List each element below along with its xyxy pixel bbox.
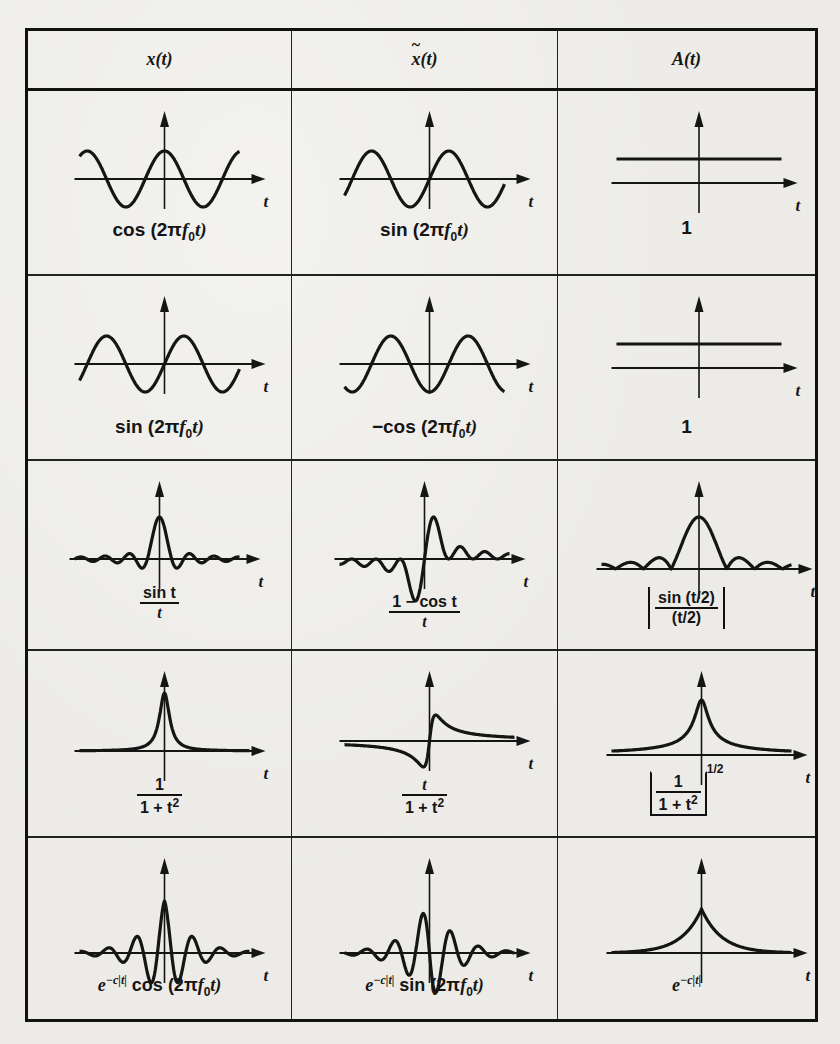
svg-text:t: t: [529, 377, 535, 396]
header-row: x(t) x(t) A(t): [27, 30, 817, 90]
cell-A: t e−c|t|: [558, 837, 817, 1021]
cell-x: t e−c|t| cos (2πf0t): [27, 837, 292, 1021]
caption: 1 − cos tt: [292, 593, 557, 631]
caption: cos (2πf0t): [28, 219, 291, 244]
cell-xtilde: t 1 − cos tt: [292, 460, 558, 650]
cell-xtilde: t sin (2πf0t): [292, 90, 558, 275]
cell-x: t sin tt: [27, 460, 292, 650]
svg-text:t: t: [529, 192, 535, 211]
table-row: t 11 + t2 t t1 + t2 t 11 + t21/2: [27, 650, 817, 837]
caption: sin (2πf0t): [28, 416, 291, 441]
caption: t1 + t2: [292, 776, 557, 817]
caption: 1: [558, 416, 815, 438]
svg-text:t: t: [529, 754, 535, 773]
header-xtilde-fn: x: [412, 49, 421, 70]
caption: −cos (2πf0t): [292, 416, 557, 441]
table-row: t e−c|t| cos (2πf0t) t e−c|t| sin (2πf0t…: [27, 837, 817, 1021]
cell-x: t 11 + t2: [27, 650, 292, 837]
cell-xtilde: t −cos (2πf0t): [292, 275, 558, 460]
signal-plot: t: [558, 91, 815, 271]
caption: 1: [558, 217, 815, 239]
cell-A: t sin (t/2)(t/2): [558, 460, 817, 650]
svg-text:t: t: [264, 377, 270, 396]
header-xtilde-arg: (t): [421, 49, 438, 69]
cell-A: t 1: [558, 90, 817, 275]
hilbert-transform-pairs-table: x(t) x(t) A(t) t cos (2πf0t) t sin (2πf0…: [25, 28, 818, 1022]
cell-A: t 11 + t21/2: [558, 650, 817, 837]
caption: e−c|t| sin (2πf0t): [292, 973, 557, 999]
signal-plot: t: [292, 91, 557, 271]
header-A-fn: A: [672, 49, 684, 69]
caption: e−c|t| cos (2πf0t): [28, 973, 291, 999]
caption: 11 + t21/2: [558, 771, 815, 816]
cell-xtilde: t e−c|t| sin (2πf0t): [292, 837, 558, 1021]
header-A-arg: (t): [684, 49, 701, 69]
svg-text:t: t: [796, 381, 802, 400]
header-x: x(t): [27, 30, 292, 90]
table-row: t sin (2πf0t) t −cos (2πf0t) t 1: [27, 275, 817, 460]
caption: e−c|t|: [558, 973, 815, 996]
table-row: t cos (2πf0t) t sin (2πf0t) t 1: [27, 90, 817, 275]
caption: sin (t/2)(t/2): [558, 587, 815, 629]
caption: sin (2πf0t): [292, 219, 557, 244]
header-x-tilde: x(t): [292, 30, 558, 90]
caption: sin tt: [28, 584, 291, 622]
table-row: t sin tt t 1 − cos tt t sin (t/2)(t/2): [27, 460, 817, 650]
svg-text:t: t: [524, 572, 530, 591]
header-x-fn: x: [147, 49, 156, 69]
cell-xtilde: t t1 + t2: [292, 650, 558, 837]
svg-text:t: t: [796, 196, 802, 215]
header-A: A(t): [558, 30, 817, 90]
cell-x: t cos (2πf0t): [27, 90, 292, 275]
cell-x: t sin (2πf0t): [27, 275, 292, 460]
svg-text:t: t: [264, 192, 270, 211]
signal-plot: t: [28, 91, 291, 271]
caption: 11 + t2: [28, 776, 291, 817]
header-x-arg: (t): [156, 49, 173, 69]
cell-A: t 1: [558, 275, 817, 460]
